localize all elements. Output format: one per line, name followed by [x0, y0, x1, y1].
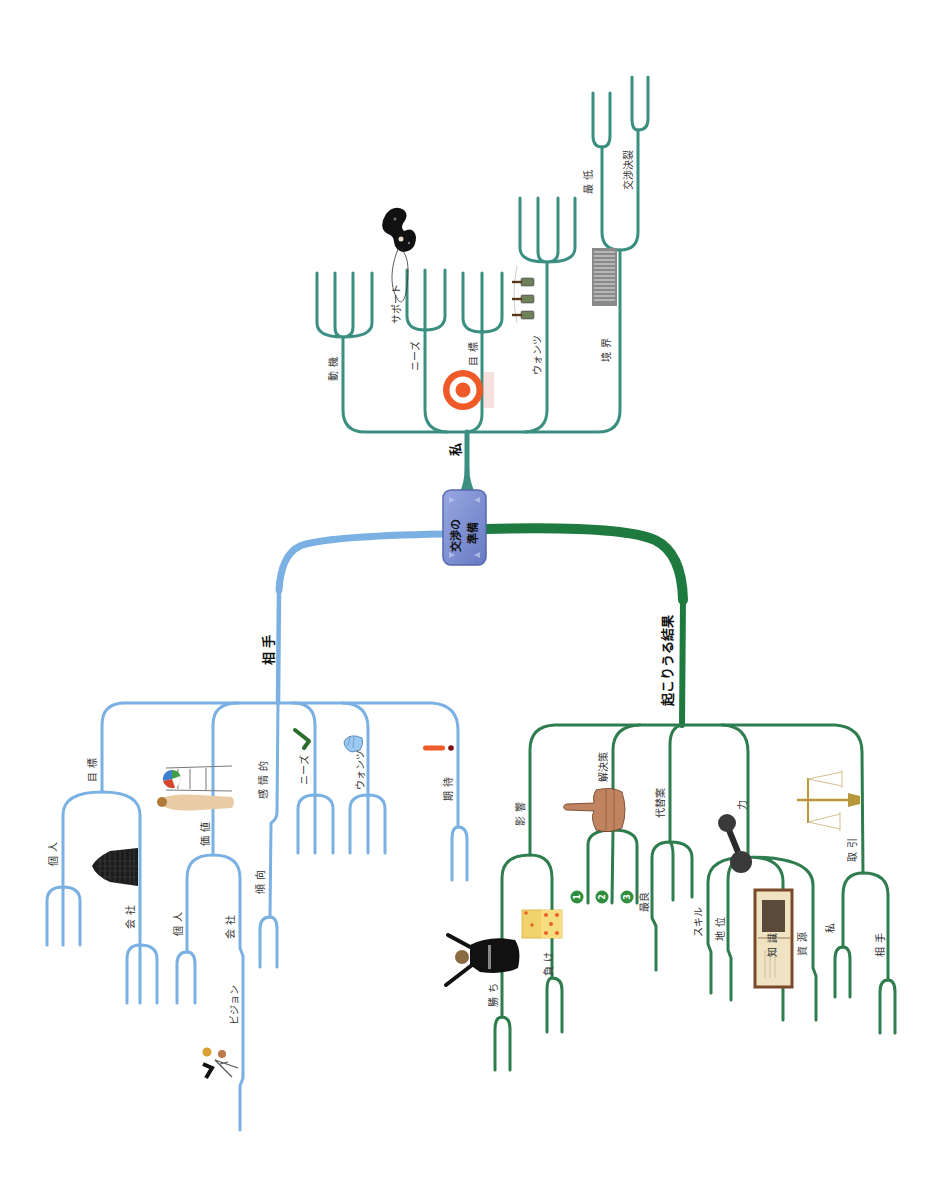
node-solution: 解決策	[597, 752, 609, 782]
node-boundary: 境界	[600, 334, 612, 362]
checkmark-icon	[295, 730, 309, 748]
node-their-wants: ウォンツ	[355, 750, 366, 790]
thumb-icon	[564, 788, 626, 831]
node-status: 地位	[714, 913, 726, 941]
node-tendency: 傾向	[254, 866, 266, 894]
node-goal-individual: 個人	[47, 838, 59, 866]
bottles-icon	[512, 266, 534, 323]
mind-map-canvas: 交渉の 準備	[0, 0, 948, 1194]
node-my-wants: ウォンツ	[532, 335, 543, 375]
svg-text:2: 2	[598, 894, 607, 900]
node-expectation: 期待	[442, 773, 454, 801]
branch-counterpart-lines	[47, 534, 467, 1130]
mind-map: 交渉の 準備	[0, 0, 948, 1194]
target-icon	[443, 370, 494, 410]
building-icon	[92, 848, 138, 886]
node-minimum: 最低	[582, 166, 594, 194]
node-skill: スキル	[693, 907, 704, 937]
node-alternative: 代替案	[654, 788, 666, 818]
node-their-needs: ニーズ	[298, 755, 310, 785]
branch-label-outcomes: 起こりうる結果	[660, 615, 675, 707]
node-emotional: 感情的	[257, 757, 269, 799]
branch-label-me: 私	[448, 443, 463, 456]
node-deal-me: 私	[825, 923, 836, 933]
node-value-individual: 個人	[172, 908, 184, 936]
central-node-line2: 準備	[466, 522, 480, 544]
node-breakdown: 交渉決裂	[622, 150, 634, 190]
fallen-man-icon	[446, 935, 519, 985]
node-impact: 影響	[514, 798, 526, 826]
node-best: 最良	[638, 892, 650, 912]
climbers-icon	[203, 1048, 239, 1079]
node-win: 勝ち	[487, 979, 499, 1007]
node-my-needs: ニーズ	[409, 341, 421, 371]
dice-icon	[522, 910, 562, 938]
node-value: 価値	[199, 818, 211, 846]
node-goal-company: 会社	[124, 901, 136, 929]
central-node-line1: 交渉の	[449, 519, 463, 552]
node-value-company: 会社	[224, 911, 236, 939]
solution-number-2: 2	[596, 891, 609, 904]
presentation-icon	[157, 766, 234, 811]
node-motive: 動機	[327, 353, 339, 381]
fence-icon	[592, 248, 617, 306]
node-deal-counterpart: 相手	[874, 929, 886, 957]
solution-number-1: 1	[571, 891, 584, 904]
svg-text:1: 1	[573, 894, 582, 900]
node-lose: 負け	[543, 948, 554, 976]
exclamation-icon	[423, 745, 454, 751]
scales-icon	[797, 770, 860, 831]
solution-number-3: 3	[621, 891, 634, 904]
node-resources: 資源	[796, 928, 808, 956]
branch-label-counterpart: 相手	[261, 631, 276, 665]
node-vision: ビジョン	[229, 985, 240, 1025]
node-support: サポート	[391, 284, 402, 324]
central-node: 交渉の 準備	[443, 490, 486, 565]
node-their-goal: 目標	[86, 754, 98, 782]
node-my-goal: 目標	[467, 338, 479, 366]
pointing-hand-icon	[344, 736, 363, 752]
node-power: 力	[736, 800, 748, 810]
node-deal: 取引	[847, 834, 858, 862]
svg-text:3: 3	[623, 894, 632, 900]
node-knowledge: 知識	[766, 929, 778, 957]
